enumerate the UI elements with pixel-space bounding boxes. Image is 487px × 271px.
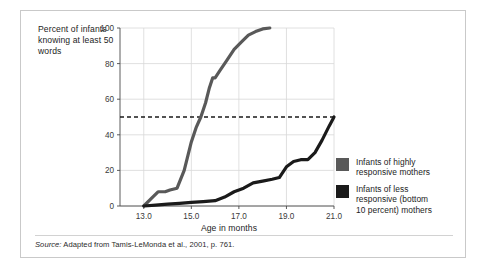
y-tick-label: 40 (105, 131, 115, 140)
legend-label-highly-responsive: Infants of highly responsive mothers (356, 157, 430, 178)
legend-item-highly-responsive: Infants of highly responsive mothers (336, 157, 466, 178)
y-tick-label: 20 (105, 166, 115, 175)
y-tick-label: 80 (105, 60, 115, 69)
figure-frame: Percent of infants knowing at least 50 w… (20, 10, 466, 258)
y-tick-label: 100 (100, 24, 114, 33)
x-tick-label: 13.0 (136, 212, 152, 221)
legend-item-less-responsive: Infants of less responsive (bottom 10 pe… (336, 184, 466, 215)
x-axis-title: Age in months (169, 223, 289, 233)
x-tick-label: 15.0 (183, 212, 199, 221)
source-lead: Source: (35, 240, 62, 249)
source-note: Source: Adapted from Tamis-LeMonda et al… (35, 240, 234, 249)
legend-label-less-responsive: Infants of less responsive (bottom 10 pe… (356, 184, 432, 215)
legend-swatch-less-responsive (336, 185, 349, 198)
legend-swatch-highly-responsive (336, 158, 349, 171)
x-tick-label: 19.0 (278, 212, 294, 221)
source-divider (35, 235, 453, 236)
y-tick-label: 60 (105, 95, 115, 104)
source-citation: Adapted from Tamis-LeMonda et al., 2001,… (62, 240, 235, 249)
chart-legend: Infants of highly responsive mothers Inf… (336, 157, 466, 221)
chart-area: Percent of infants knowing at least 50 w… (21, 11, 467, 223)
x-tick-label: 17.0 (231, 212, 247, 221)
y-tick-label: 0 (109, 202, 114, 211)
